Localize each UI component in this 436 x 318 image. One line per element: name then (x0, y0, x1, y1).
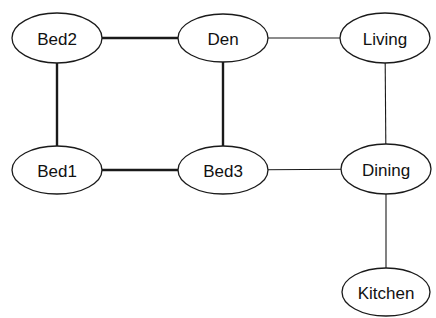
node-living: Living (340, 13, 430, 63)
node-bed3: Bed3 (178, 146, 268, 194)
node-label: Bed3 (203, 162, 243, 181)
node-bed1: Bed1 (12, 146, 102, 194)
node-label: Bed1 (37, 162, 77, 181)
room-adjacency-graph: Bed2DenLivingBed1Bed3DiningKitchen (0, 0, 436, 318)
node-label: Living (363, 30, 407, 49)
node-label: Kitchen (358, 284, 415, 303)
node-kitchen: Kitchen (342, 268, 430, 316)
nodes-layer: Bed2DenLivingBed1Bed3DiningKitchen (12, 13, 431, 316)
node-bed2: Bed2 (12, 13, 102, 63)
node-label: Bed2 (37, 30, 77, 49)
node-label: Dining (362, 161, 410, 180)
node-label: Den (207, 30, 238, 49)
node-den: Den (178, 14, 268, 62)
node-dining: Dining (341, 144, 431, 194)
